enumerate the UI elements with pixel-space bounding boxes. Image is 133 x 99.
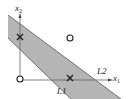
x2-axis-label: x2: [14, 3, 22, 14]
diagram-canvas: x2 x1 L2 L1: [0, 0, 133, 99]
circle-marker-icon: [17, 76, 23, 82]
diagram-svg: x2 x1 L2 L1: [0, 0, 133, 99]
line-l2-label: L2: [96, 66, 107, 76]
circle-marker-icon: [67, 35, 73, 41]
line-l1-label: L1: [56, 86, 67, 96]
x1-axis-label: x1: [112, 73, 120, 84]
